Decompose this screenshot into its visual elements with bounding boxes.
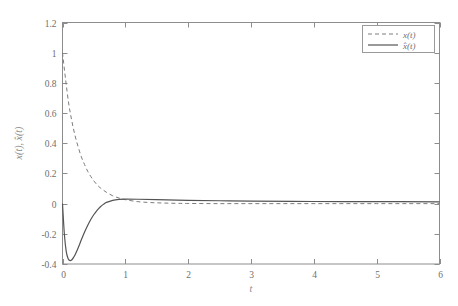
y-tick-label: -0.4	[41, 260, 56, 270]
legend: x(t) x̂(t)	[363, 26, 435, 53]
legend-label-xhat: x̂(t)	[402, 41, 416, 51]
y-tick-label: 0	[52, 200, 57, 210]
x-tick-label: 2	[186, 270, 191, 280]
line-chart: 0123456 -0.4-0.200.20.40.60.811.2 t x(t)…	[0, 0, 458, 306]
series-line-x	[63, 53, 440, 204]
x-tick-label: 6	[438, 270, 443, 280]
y-axis-tick-labels: -0.4-0.200.20.40.60.811.2	[41, 19, 56, 270]
x-axis-ticks	[64, 23, 441, 265]
x-axis-tick-labels: 0123456	[61, 270, 443, 280]
legend-label-x: x(t)	[402, 30, 416, 40]
y-tick-label: 0.4	[45, 139, 57, 149]
y-tick-label: 1	[52, 49, 57, 59]
x-tick-label: 1	[123, 270, 128, 280]
x-axis-label: t	[250, 283, 253, 294]
x-tick-label: 5	[375, 270, 380, 280]
plot-frame	[63, 23, 440, 265]
series-line-xhat	[63, 199, 440, 261]
legend-box	[363, 26, 435, 53]
y-tick-label: 0.2	[45, 169, 57, 179]
figure-container: 0123456 -0.4-0.200.20.40.60.811.2 t x(t)…	[0, 0, 458, 306]
y-tick-label: 1.2	[45, 19, 57, 29]
y-tick-label: 0.8	[45, 79, 57, 89]
y-axis-label: x(t), x̂(t)	[13, 126, 25, 160]
x-tick-label: 3	[249, 270, 254, 280]
y-axis-ticks	[63, 24, 440, 265]
x-tick-label: 0	[61, 270, 66, 280]
x-tick-label: 4	[312, 270, 317, 280]
y-tick-label: 0.6	[45, 109, 57, 119]
y-tick-label: -0.2	[41, 230, 56, 240]
